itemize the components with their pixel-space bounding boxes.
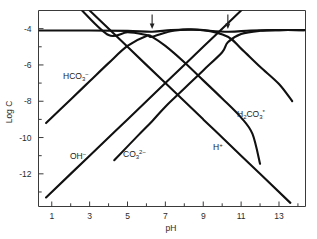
x-tick-label: 11 bbox=[237, 211, 246, 221]
x-tick-label: 3 bbox=[87, 211, 92, 221]
y-tick-label: -4 bbox=[24, 24, 32, 34]
hco3-base: HCO bbox=[63, 71, 82, 81]
co3-base: CO bbox=[123, 149, 136, 159]
hco3-sup: − bbox=[85, 71, 89, 77]
x-axis-title: pH bbox=[166, 223, 177, 233]
co3-sup: 2− bbox=[139, 149, 146, 155]
y-tick-label: -6 bbox=[24, 60, 32, 70]
y-axis-title: Log C bbox=[4, 101, 14, 124]
x-tick-label: 13 bbox=[274, 211, 284, 221]
y-tick-label: -12 bbox=[19, 169, 32, 179]
oh-sup: − bbox=[83, 151, 87, 157]
x-tick-label: 1 bbox=[49, 211, 54, 221]
y-tick-label: -8 bbox=[24, 96, 32, 106]
y-tick-label: -10 bbox=[19, 133, 32, 143]
carbonate-speciation-chart: -4-6-8-10-12 135791113 pH Log C HCO3− CO… bbox=[0, 0, 317, 239]
x-tick-label: 7 bbox=[163, 211, 168, 221]
log-c-ph-speciation-figure: -4-6-8-10-12 135791113 pH Log C HCO3− CO… bbox=[0, 0, 317, 239]
x-tick-label: 5 bbox=[125, 211, 130, 221]
x-tick-label: 9 bbox=[201, 211, 206, 221]
oh-base: OH bbox=[70, 151, 83, 161]
h-sup: + bbox=[219, 142, 223, 148]
h2co3-base-b: CO bbox=[246, 109, 259, 119]
